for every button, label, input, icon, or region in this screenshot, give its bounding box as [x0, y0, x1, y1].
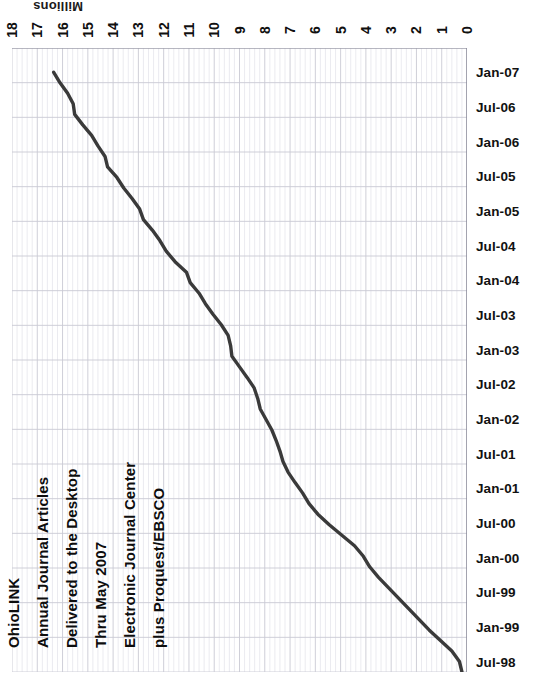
value-axis-unit-label: Millions	[33, 0, 83, 14]
title-line-4: Thru May 2007	[92, 542, 109, 648]
category-label-jul-02: Jul-02	[476, 377, 516, 392]
value-tick-0: 0	[453, 15, 481, 45]
category-label-jan-01: Jan-01	[476, 481, 519, 496]
value-tick-6: 6	[301, 15, 329, 45]
category-label-jan-04: Jan-04	[476, 273, 519, 288]
category-label-jul-98: Jul-98	[476, 654, 516, 669]
value-tick-4: 4	[352, 15, 380, 45]
category-label-jul-00: Jul-00	[476, 515, 516, 530]
title-line-5: Electronic Journal Center	[121, 462, 138, 648]
chart-container: Millions 1817161514131211109876543210 Ja…	[0, 0, 536, 683]
value-tick-3: 3	[377, 15, 405, 45]
category-label-jul-04: Jul-04	[476, 238, 516, 253]
category-label-jan-02: Jan-02	[476, 411, 519, 426]
value-tick-15: 15	[74, 15, 102, 45]
category-label-jan-99: Jan-99	[476, 619, 519, 634]
value-tick-9: 9	[226, 15, 254, 45]
title-line-6: plus Proquest/EBSCO	[150, 488, 167, 648]
value-tick-17: 17	[23, 15, 51, 45]
value-tick-12: 12	[150, 15, 178, 45]
category-label-jan-05: Jan-05	[476, 203, 519, 218]
value-tick-5: 5	[327, 15, 355, 45]
value-tick-8: 8	[251, 15, 279, 45]
value-tick-7: 7	[276, 15, 304, 45]
category-label-jul-03: Jul-03	[476, 307, 516, 322]
value-tick-1: 1	[428, 15, 456, 45]
category-label-jul-99: Jul-99	[476, 585, 516, 600]
category-label-jul-05: Jul-05	[476, 169, 516, 184]
category-label-jan-07: Jan-07	[476, 65, 519, 80]
category-label-jan-06: Jan-06	[476, 134, 519, 149]
category-label-jan-03: Jan-03	[476, 342, 519, 357]
value-axis-tick-labels: 1817161514131211109876543210	[0, 16, 536, 46]
value-tick-10: 10	[200, 15, 228, 45]
value-tick-13: 13	[124, 15, 152, 45]
category-label-jul-01: Jul-01	[476, 446, 516, 461]
value-tick-16: 16	[49, 15, 77, 45]
title-line-3: Delivered to the Desktop	[63, 469, 80, 648]
title-line-1: OhioLINK	[5, 578, 22, 648]
category-label-jan-00: Jan-00	[476, 550, 519, 565]
title-line-2: Annual Journal Articles	[34, 477, 51, 648]
value-tick-14: 14	[99, 15, 127, 45]
category-label-jul-06: Jul-06	[476, 99, 516, 114]
value-tick-2: 2	[402, 15, 430, 45]
value-tick-11: 11	[175, 15, 203, 45]
chart-title: OhioLINKAnnual Journal ArticlesDelivered…	[22, 372, 202, 648]
category-axis-labels: Jan-07Jul-06Jan-06Jul-05Jan-05Jul-04Jan-…	[476, 48, 536, 672]
